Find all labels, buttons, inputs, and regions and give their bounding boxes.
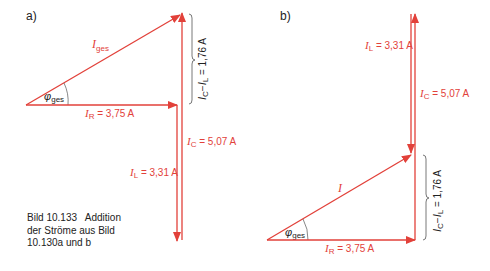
label-diff-a: IC−IL = 1,76 A xyxy=(196,38,210,100)
label-i-ges-a: Iges xyxy=(91,37,109,53)
label-i-l-a: IL = 3,31 A xyxy=(129,166,178,180)
label-diff-b: IC−IL = 1,76 A xyxy=(431,170,445,232)
caption-line-3: 10.130a und b xyxy=(27,237,137,250)
label-i-r-b: IR = 3,75 A xyxy=(324,242,375,256)
bracket-b xyxy=(423,155,429,240)
caption-line-1: Bild 10.133 Addition xyxy=(27,212,137,225)
label-i-b: I xyxy=(337,181,343,195)
caption-line-2: der Ströme aus Bild xyxy=(27,225,137,238)
label-i-l-b: IL = 3,31 A xyxy=(364,39,413,53)
angle-arc-a xyxy=(64,83,68,105)
label-i-r-a: IR = 3,75 A xyxy=(84,107,135,121)
label-i-c-b: IC = 5,07 A xyxy=(419,87,470,101)
label-phi-a: φges xyxy=(44,90,64,104)
panel-b-label: b) xyxy=(280,9,291,23)
bracket-a xyxy=(189,14,195,104)
label-phi-b: φges xyxy=(285,226,305,240)
panel-a-label: a) xyxy=(26,9,37,23)
label-i-c-a: IC = 5,07 A xyxy=(186,135,237,149)
figure-caption: Bild 10.133 Addition der Ströme aus Bild… xyxy=(27,212,137,250)
